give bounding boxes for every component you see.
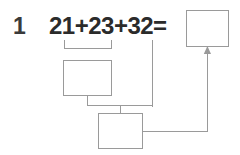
partial-sum-answer-box-2[interactable]: [98, 113, 143, 149]
sum-answer-box[interactable]: [186, 10, 229, 47]
partial-sum-answer-box-1[interactable]: [63, 60, 112, 96]
worksheet-problem: 1 21+23+32=: [0, 0, 240, 155]
arrow-up-icon: [204, 46, 211, 54]
